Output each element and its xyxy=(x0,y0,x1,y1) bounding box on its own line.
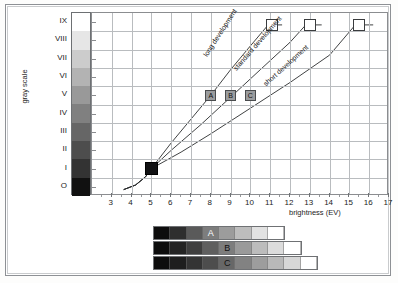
strip-cell xyxy=(154,242,170,254)
strip-label-a: A xyxy=(203,227,220,239)
gray-scale-step xyxy=(72,86,90,104)
y-axis-tick xyxy=(92,187,96,188)
strip-label-c: C xyxy=(219,257,236,269)
gray-scale-step xyxy=(72,178,90,196)
grid-line-vertical xyxy=(270,13,271,194)
strip-cell xyxy=(268,257,284,269)
gray-scale-step xyxy=(72,68,90,86)
gray-scale-step xyxy=(72,13,90,31)
strip-cell xyxy=(252,257,268,269)
strip-a xyxy=(153,226,285,240)
grid-line-vertical xyxy=(349,13,350,194)
x-axis-tick xyxy=(210,193,211,197)
x-axis-tick-label: 16 xyxy=(360,198,376,207)
x-axis-tick xyxy=(170,193,171,197)
zone-marker-c: C xyxy=(245,90,256,101)
x-axis-tick xyxy=(150,193,151,197)
x-axis-minor-tick xyxy=(101,195,102,197)
strip-cell xyxy=(219,227,235,239)
grid-line-vertical xyxy=(250,13,251,194)
x-axis-title: brightness (EV) xyxy=(289,208,341,217)
x-axis-tick-label: 15 xyxy=(340,198,356,207)
x-axis-tick-label: 17 xyxy=(380,198,396,207)
y-axis-tick xyxy=(92,132,96,133)
grid-line-vertical xyxy=(112,13,113,194)
strip-cell xyxy=(235,227,251,239)
y-axis-title: gray scale xyxy=(20,57,29,117)
x-axis-minor-tick xyxy=(259,195,260,197)
x-axis-minor-tick xyxy=(339,195,340,197)
y-axis-tick xyxy=(92,95,96,96)
x-axis-tick xyxy=(269,193,270,197)
grid-line-horizontal xyxy=(92,123,387,124)
grid-line-vertical xyxy=(369,13,370,194)
strip-cell xyxy=(154,257,170,269)
curve-endpoint-marker xyxy=(304,19,316,31)
y-axis-tick-label: IV xyxy=(41,108,67,117)
grid-line-vertical xyxy=(290,13,291,194)
y-axis-tick-label: VII xyxy=(41,53,67,62)
grid-line-vertical xyxy=(310,13,311,194)
grid-line-horizontal xyxy=(92,86,387,87)
y-axis-tick-label: V xyxy=(41,89,67,98)
grid-line-horizontal xyxy=(92,31,387,32)
x-axis-tick xyxy=(289,193,290,197)
strip-cell xyxy=(203,242,219,254)
x-axis-tick xyxy=(329,193,330,197)
strip-cell xyxy=(284,242,300,254)
x-axis-tick-label: 8 xyxy=(202,198,218,207)
x-axis-minor-tick xyxy=(299,195,300,197)
x-axis-minor-tick xyxy=(240,195,241,197)
x-axis-tick-label: 10 xyxy=(241,198,257,207)
x-axis-minor-tick xyxy=(180,195,181,197)
gray-scale-step xyxy=(72,159,90,177)
y-axis-tick xyxy=(92,114,96,115)
x-axis-minor-tick xyxy=(160,195,161,197)
y-axis-tick xyxy=(92,77,96,78)
x-axis-tick-label: 6 xyxy=(162,198,178,207)
strip-cell xyxy=(235,257,251,269)
x-axis-minor-tick xyxy=(358,195,359,197)
x-axis-tick xyxy=(131,193,132,197)
x-axis-tick-label: 14 xyxy=(321,198,337,207)
strip-cell xyxy=(284,257,300,269)
figure-page: gray scale IXVIIIVIIVIVIVIIIIIIO ABClong… xyxy=(0,0,398,283)
strip-cell xyxy=(154,227,170,239)
grid-line-vertical xyxy=(171,13,172,194)
x-axis-tick xyxy=(230,193,231,197)
x-axis-tick-labels: 34567891011121314151617 xyxy=(91,198,388,210)
plot-area: ABClong developmentstandard developments… xyxy=(91,12,388,195)
zone-marker-b: B xyxy=(225,90,236,101)
origin-marker xyxy=(145,162,158,175)
y-axis-tick-label: I xyxy=(41,163,67,172)
gray-scale-step xyxy=(72,31,90,49)
x-axis-tick-label: 11 xyxy=(261,198,277,207)
grid-line-horizontal xyxy=(92,105,387,106)
y-axis-tick xyxy=(92,40,96,41)
strip-cell xyxy=(187,227,203,239)
y-axis-tick-label: II xyxy=(41,144,67,153)
x-axis-tick xyxy=(348,193,349,197)
grid-line-horizontal xyxy=(92,50,387,51)
grid-line-vertical xyxy=(231,13,232,194)
strip-cell xyxy=(235,242,251,254)
grid-line-horizontal xyxy=(92,159,387,160)
gray-scale-step xyxy=(72,123,90,141)
strip-cell xyxy=(170,242,186,254)
strip-cell xyxy=(187,242,203,254)
x-axis-minor-tick xyxy=(279,195,280,197)
y-axis-tick xyxy=(92,22,96,23)
x-axis-tick-label: 3 xyxy=(103,198,119,207)
x-axis-tick-label: 9 xyxy=(222,198,238,207)
grid-line-horizontal xyxy=(92,178,387,179)
x-axis-minor-tick xyxy=(200,195,201,197)
y-axis-tick-label: IX xyxy=(41,16,67,25)
y-axis-tick-label: III xyxy=(41,126,67,135)
strip-cell xyxy=(268,227,284,239)
strip-cell xyxy=(268,242,284,254)
x-axis-tick-label: 12 xyxy=(281,198,297,207)
x-axis-minor-tick xyxy=(319,195,320,197)
x-axis-minor-tick xyxy=(220,195,221,197)
x-axis-tick-label: 5 xyxy=(142,198,158,207)
x-axis-tick xyxy=(368,193,369,197)
